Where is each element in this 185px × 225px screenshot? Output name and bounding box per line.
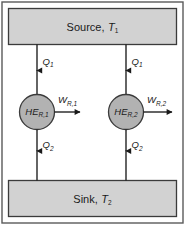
source-label: Source,T1 [67,21,119,35]
sink-label: Sink,T2 [73,193,112,207]
heat-engine-diagram: Source,T1 Sink,T2 Q1 HER,1 WR,1 Q2 Q1 [0,0,185,225]
